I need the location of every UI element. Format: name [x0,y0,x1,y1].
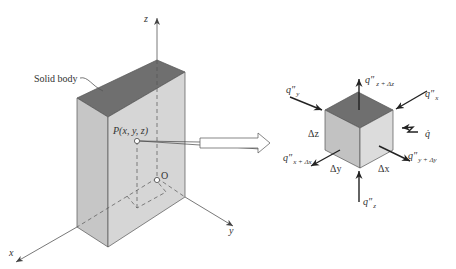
flux-z-dz-label: q″z + Δz [365,74,394,88]
x-axis [16,227,77,262]
origin-label: O [161,170,168,181]
flux-x-label: q″x [425,88,439,102]
flux-y-dy-label: q″y + Δy [408,150,438,164]
z-axis-label: z [143,13,148,24]
flux-x-arrow [396,91,427,109]
differential-element [290,79,427,202]
dy-label: Δy [330,163,341,174]
dz-label: Δz [308,128,319,139]
y-axis-label: y [228,225,234,236]
origin-point [154,177,159,182]
hollow-arrow [200,133,270,153]
label-leader [80,78,103,91]
generation-label: q̇ [425,128,430,139]
heat-conduction-diagram: Solid body P(x, y, z) O z x y q″z + Δz q… [0,0,456,269]
dx-label: Δx [378,163,389,174]
point-p-label: P(x, y, z) [112,125,149,137]
flux-x-dx-label: q″x + Δx [283,152,313,166]
y-axis [185,197,233,226]
flux-y-arrow [290,97,322,110]
point-p [134,138,139,143]
flux-y-label: q″y [286,84,300,98]
left-face [77,98,108,247]
solid-body-label: Solid body [34,73,78,84]
x-axis-label: x [8,247,14,258]
generation-arrow [402,127,418,132]
flux-z-label: q″z [363,196,376,210]
